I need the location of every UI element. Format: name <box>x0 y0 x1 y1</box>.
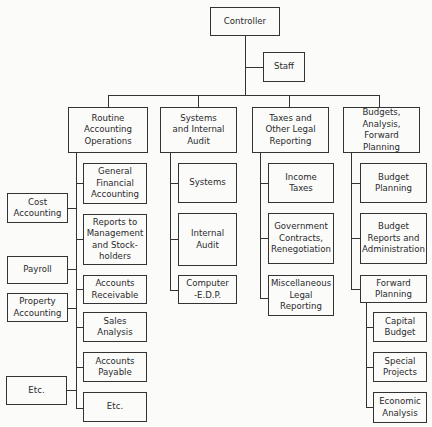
internal-audit-box: Internal Audit <box>178 213 237 266</box>
connector <box>260 238 268 239</box>
forward-planning-box: Forward Planning <box>360 275 427 303</box>
government-contracts-box: Government Contracts, Renegotiation <box>268 213 334 264</box>
systems-box: Systems <box>178 163 237 203</box>
connector <box>76 408 83 409</box>
connector <box>170 239 178 240</box>
income-taxes-box: Income Taxes <box>268 163 334 203</box>
connector <box>170 290 178 291</box>
connector <box>68 208 76 209</box>
connector <box>366 407 373 408</box>
connector <box>366 303 367 408</box>
connector <box>108 95 380 96</box>
budget-reports-box: Budget Reports and Administration <box>360 213 427 264</box>
connector <box>260 183 268 184</box>
connector <box>76 289 83 290</box>
connector <box>170 183 178 184</box>
routine-etc-box: Etc. <box>83 392 147 422</box>
capital-budget-box: Capital Budget <box>373 312 427 342</box>
connector <box>260 298 268 299</box>
connector <box>351 153 352 290</box>
property-accounting-box: Property Accounting <box>7 293 68 322</box>
connector <box>366 367 373 368</box>
economic-analysis-box: Economic Analysis <box>373 392 427 423</box>
special-projects-box: Special Projects <box>373 352 427 382</box>
connector <box>198 95 199 107</box>
connector <box>351 238 360 239</box>
systems-audit-box: Systems and Internal Audit <box>160 107 237 153</box>
staff-box: Staff <box>263 52 305 82</box>
budget-planning-box: Budget Planning <box>360 163 427 203</box>
connector <box>76 153 77 409</box>
reports-management-box: Reports to Management and Stock- holders <box>83 214 147 265</box>
connector <box>76 367 83 368</box>
connector <box>289 95 290 107</box>
connector <box>379 95 380 107</box>
routine-accounting-box: Routine Accounting Operations <box>68 107 148 153</box>
sales-analysis-box: Sales Analysis <box>83 312 147 342</box>
computer-edp-box: Computer -E.D.P. <box>178 275 237 304</box>
accounts-receivable-box: Accounts Receivable <box>83 275 147 304</box>
connector <box>245 67 263 68</box>
taxes-legal-box: Taxes and Other Legal Reporting <box>252 107 329 153</box>
payroll-box: Payroll <box>7 256 68 284</box>
connector <box>108 95 109 107</box>
budgets-analysis-box: Budgets, Analysis, Forward Planning <box>343 107 420 153</box>
controller-box: Controller <box>210 7 280 36</box>
cost-accounting-box: Cost Accounting <box>7 193 68 223</box>
general-financial-box: General Financial Accounting <box>83 163 147 204</box>
connector <box>260 153 261 299</box>
accounts-payable-box: Accounts Payable <box>83 352 147 382</box>
connector <box>67 390 76 391</box>
connector <box>76 183 83 184</box>
misc-legal-box: Miscellaneous Legal Reporting <box>268 275 334 316</box>
connector <box>68 308 76 309</box>
connector <box>245 36 246 96</box>
side-etc-box: Etc. <box>6 376 67 405</box>
connector <box>366 327 373 328</box>
connector <box>76 327 83 328</box>
connector <box>170 153 171 291</box>
connector <box>68 269 76 270</box>
connector <box>351 289 360 290</box>
connector <box>351 183 360 184</box>
connector <box>76 239 83 240</box>
